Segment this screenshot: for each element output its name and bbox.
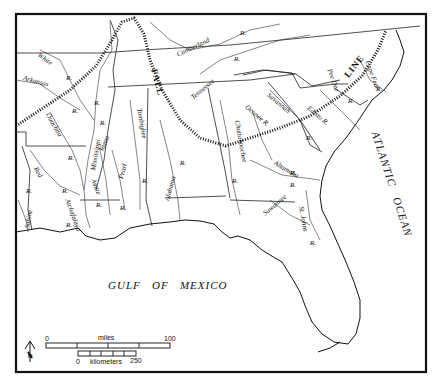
river-label-savannah-r: R. bbox=[306, 135, 312, 142]
scale-miles-end: 100 bbox=[164, 335, 176, 342]
river-label-red-r: R. bbox=[62, 188, 68, 195]
river-label-ouachita-r: R. bbox=[68, 155, 74, 162]
river-label-sabine-r: R. bbox=[26, 188, 32, 195]
scale-bar bbox=[46, 343, 170, 356]
river-label-atchafalaya-r: R. bbox=[66, 222, 72, 229]
gulf-of-mexico-label: GULF OF MEXICO bbox=[108, 280, 227, 291]
river-label-arkansas-r: R. bbox=[72, 108, 78, 115]
scale-km-label: kilometers bbox=[90, 358, 122, 365]
river-label-pearl-r: R. bbox=[120, 205, 126, 212]
river-label-white-r: R. bbox=[66, 75, 72, 82]
north-arrow-label: N bbox=[28, 353, 32, 359]
river-label-suwannee-r: R. bbox=[290, 182, 296, 189]
river-label-tombigbee-r: R. bbox=[142, 178, 148, 185]
river-label-st-johns-r: R. bbox=[310, 240, 316, 247]
river-label-tennessee-r: R. bbox=[234, 56, 240, 63]
scale-miles-start: 0 bbox=[45, 335, 49, 342]
scale-km-end: 250 bbox=[130, 357, 142, 364]
scale-miles-label: miles bbox=[98, 334, 114, 341]
river-label-cape-fear-r: R. bbox=[376, 86, 382, 93]
river-label-alabama-r: R. bbox=[180, 160, 186, 167]
river-label-yazoo-r: R. bbox=[100, 120, 106, 127]
river-label-cumberland-r: R. bbox=[240, 30, 246, 37]
river-label-mississippi-r: R. bbox=[94, 100, 100, 107]
river-label-amite-r: R. bbox=[96, 202, 102, 209]
scale-km-start: 0 bbox=[76, 358, 80, 365]
river-label-altamaha-r: R. bbox=[290, 170, 296, 177]
river-label-pee-dee-r: R. bbox=[348, 98, 354, 105]
state-boundaries bbox=[16, 20, 420, 230]
river-label-chattahoochee-r: R. bbox=[232, 178, 238, 185]
